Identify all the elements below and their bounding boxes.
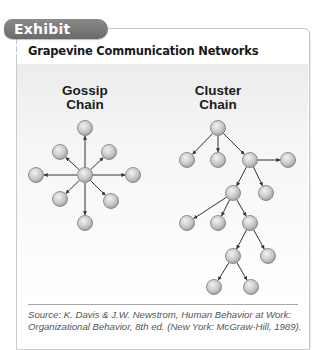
- cluster-chain-node-n8: [180, 216, 195, 231]
- cluster-chain-node-n3: [211, 153, 226, 168]
- cluster-chain-node-n6: [226, 186, 241, 201]
- gossip-chain-node-right: [126, 168, 141, 183]
- gossip-chain-edge: [66, 180, 80, 193]
- cluster-chain-edge: [237, 230, 247, 249]
- gossip-chain-node-bottom: [78, 216, 93, 231]
- cluster-chain-node-n12: [261, 249, 276, 264]
- cluster-chain-nodes: [180, 121, 296, 295]
- gossip-chain-node-center: [78, 168, 93, 183]
- cluster-chain-node-n2: [180, 153, 195, 168]
- cluster-chain-edge: [253, 167, 262, 186]
- cluster-chain-node-n10: [243, 216, 258, 231]
- gossip-chain-edge: [90, 158, 103, 170]
- source-divider: [28, 304, 298, 305]
- gossip-chain-edge: [66, 157, 80, 170]
- cluster-chain-edge: [218, 262, 229, 280]
- cluster-chain-node-n14: [244, 280, 259, 295]
- cluster-chain-node-n7: [259, 186, 274, 201]
- cluster-chain-edge: [223, 133, 244, 154]
- cluster-chain-node-n4: [243, 153, 258, 168]
- cluster-chain-edge: [237, 200, 246, 217]
- cluster-chain-node-n1: [211, 121, 226, 136]
- gossip-chain-node-left: [29, 168, 44, 183]
- gossip-chain-node-top: [78, 121, 93, 136]
- cluster-chain-edge: [237, 167, 247, 186]
- cluster-chain-node-n11: [226, 249, 241, 264]
- cluster-chain-node-n13: [207, 280, 222, 295]
- gossip-chain-node-lower-right: [104, 194, 119, 209]
- gossip-chain-node-lower-left: [53, 192, 68, 207]
- cluster-chain-node-n9: [211, 216, 226, 231]
- gossip-chain-edge: [90, 180, 105, 195]
- cluster-chain-edge: [237, 262, 247, 280]
- cluster-chain-edge: [254, 230, 265, 249]
- gossip-chain-node-upper-left: [53, 145, 68, 160]
- cluster-chain-edge: [193, 133, 213, 154]
- gossip-chain-node-upper-right: [102, 145, 117, 160]
- source-citation: Source: K. Davis & J.W. Newstrom, Human …: [28, 309, 313, 332]
- cluster-chain-node-n5: [281, 153, 296, 168]
- cluster-chain-edge: [222, 200, 230, 216]
